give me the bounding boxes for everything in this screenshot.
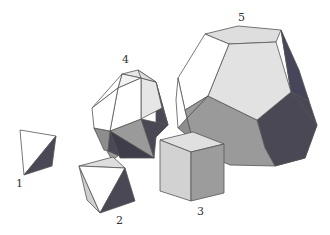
tetrahedron-shape [20, 130, 56, 175]
label-dodecahedron: 5 [238, 12, 245, 23]
platonic-solids-figure: 1 2 3 4 5 [0, 0, 330, 235]
cube-shape [160, 132, 224, 201]
icosahedron-shape [92, 70, 168, 160]
label-icosahedron: 4 [122, 54, 129, 65]
label-octahedron: 2 [116, 215, 123, 226]
solids-drawing [0, 0, 330, 235]
label-tetrahedron: 1 [16, 178, 23, 189]
label-cube: 3 [197, 206, 204, 217]
octahedron-shape [79, 157, 135, 213]
